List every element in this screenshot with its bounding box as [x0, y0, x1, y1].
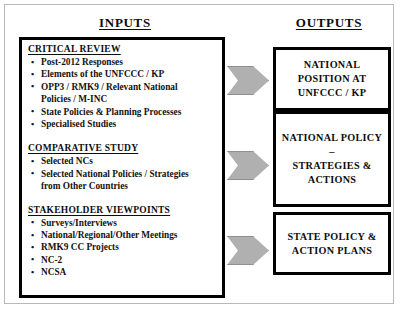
list-item: RMK9 CC Projects [28, 241, 217, 253]
output-box-national-position: NATIONAL POSITION AT UNFCCC / KP [273, 47, 391, 111]
bullet-list-critical-review-cont: State Policies & Planning Processes Spec… [28, 106, 217, 131]
output-text: STATE POLICY & ACTION PLANS [288, 230, 377, 258]
list-item: Specialised Studies [28, 118, 217, 130]
outputs-column-header: OUTPUTS [267, 15, 391, 31]
list-item: Surveys/Interviews [28, 217, 217, 229]
group-title-comparative-study: COMPARATIVE STUDY [28, 143, 217, 153]
list-item: NCSA [28, 266, 217, 278]
input-group-critical-review: CRITICAL REVIEW Post-2012 Responses Elem… [28, 44, 217, 130]
group-spacer [28, 195, 217, 205]
output-box-national-policy: NATIONAL POLICY – STRATEGIES & ACTIONS [273, 111, 391, 207]
bullet-list-comparative-study: Selected NCs Selected National Policies … [28, 155, 217, 180]
bullet-list-stakeholder-viewpoints: Surveys/Interviews National/Regional/Oth… [28, 217, 217, 279]
arrow-right-icon [227, 151, 269, 180]
list-item: Post-2012 Responses [28, 56, 217, 68]
inputs-box: CRITICAL REVIEW Post-2012 Responses Elem… [19, 37, 225, 298]
inputs-column-header: INPUTS [35, 15, 215, 31]
output-box-state-policy: STATE POLICY & ACTION PLANS [273, 212, 391, 275]
group-spacer [28, 132, 217, 143]
arrow-right-icon [227, 236, 269, 265]
output-line: UNFCCC / KP [298, 87, 366, 98]
bullet-list-critical-review: Post-2012 Responses Elements of the UNFC… [28, 56, 217, 93]
output-text: NATIONAL POSITION AT UNFCCC / KP [298, 58, 367, 100]
output-line: POSITION AT [298, 73, 367, 84]
list-item: Selected NCs [28, 155, 217, 167]
list-item-continuation: Policies / M-INC [28, 93, 217, 105]
list-item-continuation: from Other Countries [28, 180, 217, 192]
output-line: STATE POLICY & [288, 231, 377, 242]
input-group-comparative-study: COMPARATIVE STUDY Selected NCs Selected … [28, 143, 217, 192]
output-line: ACTION PLANS [292, 245, 372, 256]
list-item: Elements of the UNFCCC / KP [28, 68, 217, 80]
output-line: NATIONAL [304, 59, 361, 70]
group-title-critical-review: CRITICAL REVIEW [28, 44, 217, 54]
input-group-stakeholder-viewpoints: STAKEHOLDER VIEWPOINTS Surveys/Interview… [28, 205, 217, 279]
list-item: OPP3 / RMK9 / Relevant National [28, 81, 217, 93]
output-line: ACTIONS [308, 174, 357, 185]
group-title-stakeholder-viewpoints: STAKEHOLDER VIEWPOINTS [28, 205, 217, 215]
output-text: NATIONAL POLICY – STRATEGIES & ACTIONS [280, 131, 384, 187]
list-item: National/Regional/Other Meetings [28, 229, 217, 241]
output-line: STRATEGIES & [293, 160, 372, 171]
list-item: NC-2 [28, 254, 217, 266]
list-item: Selected National Policies / Strategies [28, 168, 217, 180]
list-item: State Policies & Planning Processes [28, 106, 217, 118]
arrow-right-icon [227, 66, 269, 95]
diagram-outer-frame: INPUTS OUTPUTS CRITICAL REVIEW Post-2012… [4, 4, 394, 304]
output-line: NATIONAL POLICY – [282, 132, 382, 157]
